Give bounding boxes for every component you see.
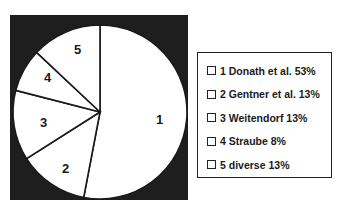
legend-swatch-icon bbox=[207, 113, 216, 122]
legend-item-weitendorf: 3 Weitendorf 13% bbox=[207, 106, 331, 130]
legend-item-gentner: 2 Gentner et al. 13% bbox=[207, 83, 331, 107]
slice-label-5: 5 bbox=[74, 42, 81, 57]
legend-swatch-icon bbox=[207, 90, 216, 99]
legend-swatch-icon bbox=[207, 137, 216, 146]
legend-label: 4 Straube 8% bbox=[220, 135, 286, 147]
slice-label-1: 1 bbox=[156, 112, 163, 127]
legend-swatch-icon bbox=[207, 160, 216, 169]
slice-label-3: 3 bbox=[40, 115, 47, 130]
legend-item-donath: 1 Donath et al. 53% bbox=[207, 59, 331, 83]
legend-item-straube: 4 Straube 8% bbox=[207, 130, 331, 154]
chart-legend: 1 Donath et al. 53% 2 Gentner et al. 13%… bbox=[197, 52, 332, 178]
legend-item-diverse: 5 diverse 13% bbox=[207, 153, 331, 177]
slice-label-4: 4 bbox=[44, 70, 52, 85]
legend-label: 3 Weitendorf 13% bbox=[220, 112, 307, 124]
legend-label: 1 Donath et al. 53% bbox=[220, 65, 316, 77]
legend-label: 5 diverse 13% bbox=[220, 159, 289, 171]
pie-chart: 1 2 3 4 5 bbox=[10, 15, 188, 200]
pie-chart-frame: 1 2 3 4 5 bbox=[10, 15, 188, 200]
legend-swatch-icon bbox=[207, 66, 216, 75]
legend-label: 2 Gentner et al. 13% bbox=[220, 88, 320, 100]
slice-label-2: 2 bbox=[62, 161, 69, 176]
